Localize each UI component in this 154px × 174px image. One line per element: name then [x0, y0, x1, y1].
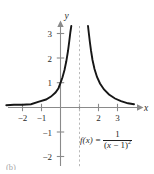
y-tick-label-minus1: −1	[42, 128, 52, 138]
fraction-denominator: (x − 1)2	[103, 141, 132, 151]
y-axis-label: y	[63, 11, 69, 21]
equation-equals-sign: =	[95, 135, 100, 145]
equation-left-side: f(x)	[80, 135, 93, 145]
x-tick-label-2: 2	[96, 113, 101, 123]
y-tick-label-2: 2	[48, 54, 53, 64]
function-equation-annotation: f(x) = 1 (x − 1)2	[80, 130, 132, 151]
fraction-numerator: 1	[112, 130, 123, 140]
y-tick-label-1: 1	[48, 78, 53, 88]
figure-caption: (b)	[6, 162, 16, 170]
denominator-operator: −	[111, 140, 121, 150]
y-axis-arrow-icon	[57, 21, 63, 28]
curve-left-branch	[6, 26, 71, 105]
x-tick-label-minus2: −2	[18, 113, 28, 123]
x-tick-label-3: 3	[115, 113, 120, 123]
x-axis-label: x	[143, 103, 149, 113]
figure-container: −2 −1 2 3 3 2 1 −1 −2 x y f(x) = 1 (x − …	[0, 0, 154, 174]
x-tick-label-minus1: −1	[37, 113, 47, 123]
curve-right-branch	[88, 26, 134, 104]
denominator-exponent: 2	[128, 139, 131, 145]
y-tick-label-3: 3	[48, 29, 53, 39]
equation-fraction: 1 (x − 1)2	[103, 130, 132, 151]
x-axis-arrow-icon	[137, 104, 144, 110]
y-tick-label-minus2: −2	[42, 152, 52, 162]
